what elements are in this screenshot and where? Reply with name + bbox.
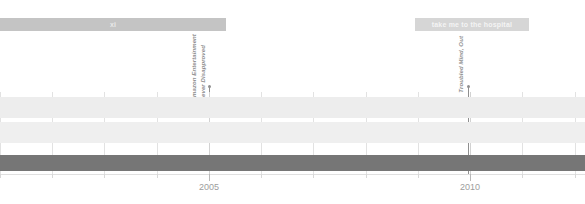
timeline-banner-take-me-to-the-hospital[interactable]: take me to the hospital xyxy=(415,18,528,31)
axis-tick xyxy=(261,174,262,178)
axis-tick xyxy=(575,174,576,178)
timeline-banner-label: take me to the hospital xyxy=(432,21,512,28)
axis-tick xyxy=(52,174,53,178)
timeline-band-row xyxy=(0,122,585,143)
timeline-band-row xyxy=(0,97,585,118)
timeline-banner-label: xi xyxy=(110,21,116,28)
event-marker-dot[interactable] xyxy=(208,85,211,88)
axis-tick xyxy=(366,174,367,178)
event-marker-label-line: Troubled Mind, Out xyxy=(457,36,466,93)
axis-tick-label: 2010 xyxy=(460,182,480,192)
axis-tick xyxy=(0,174,1,178)
axis-tick xyxy=(470,174,471,181)
axis-tick xyxy=(313,174,314,178)
axis-tick xyxy=(157,174,158,178)
timeline-chart: xi take me to the hospital Amazon Entert… xyxy=(0,0,585,204)
axis-tick-label: 2005 xyxy=(199,182,219,192)
timeline-banner-xi[interactable]: xi xyxy=(0,18,226,31)
x-axis: 20052010 xyxy=(0,174,585,204)
timeline-band-row xyxy=(0,155,585,171)
axis-tick xyxy=(104,174,105,178)
axis-line xyxy=(0,174,585,175)
axis-tick xyxy=(418,174,419,178)
axis-tick xyxy=(522,174,523,178)
event-marker-dot[interactable] xyxy=(467,85,470,88)
plot-area xyxy=(0,92,585,174)
event-marker-label: Troubled Mind, Out xyxy=(457,36,466,93)
axis-tick xyxy=(209,174,210,181)
